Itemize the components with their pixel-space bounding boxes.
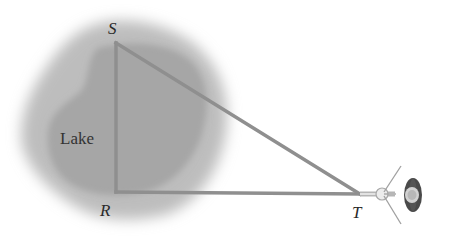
surveyor-person-icon	[404, 178, 422, 212]
surveyor-instrument-icon	[360, 166, 401, 224]
vertex-label-r: R	[100, 202, 110, 219]
segment-rt	[116, 192, 360, 194]
tripod-leg-lower	[384, 196, 401, 224]
vertex-label-s: S	[108, 20, 117, 37]
lake-triangle-diagram: S R T Lake	[0, 0, 449, 237]
vertex-label-t: T	[352, 204, 361, 221]
tripod-leg-upper	[384, 166, 401, 192]
diagram-graphic	[0, 0, 449, 237]
lake-label: Lake	[60, 130, 94, 147]
